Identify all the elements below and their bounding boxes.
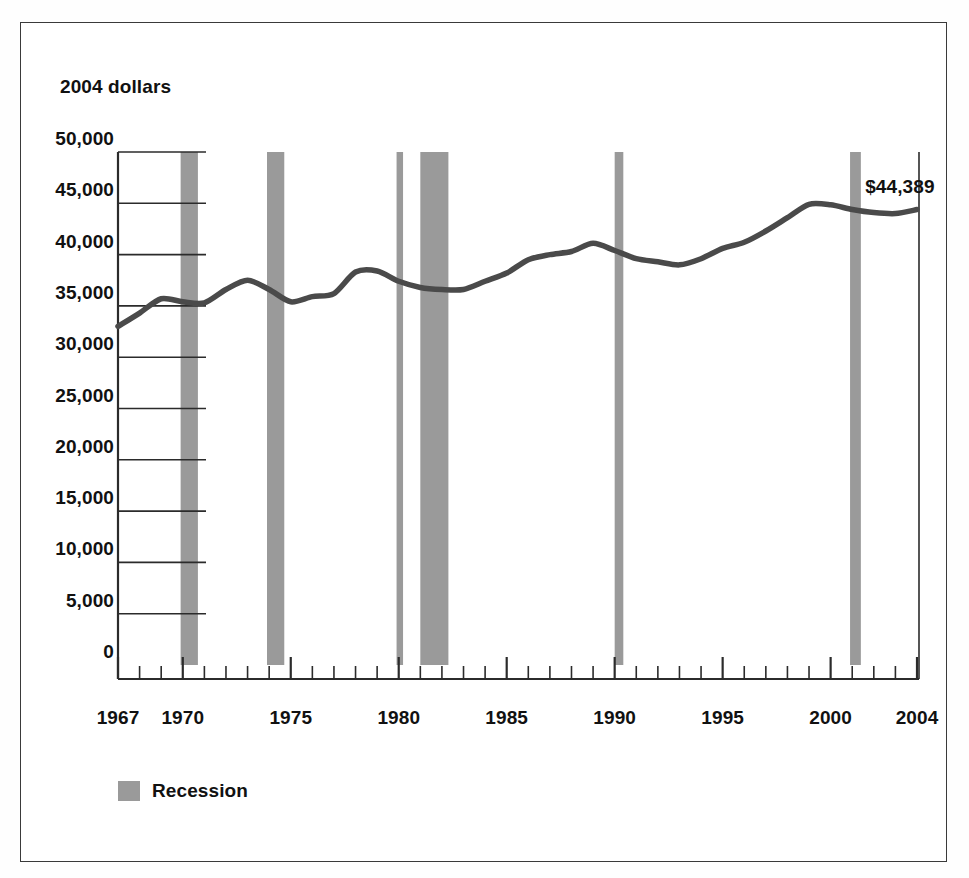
legend-label-recession: Recession	[152, 780, 248, 802]
chart-canvas	[0, 0, 969, 878]
x-tick-label: 1980	[359, 707, 439, 729]
recession-band	[267, 152, 284, 665]
x-tick-label: 2000	[791, 707, 871, 729]
y-tick-label: 10,000	[4, 538, 114, 560]
y-tick-label: 35,000	[4, 282, 114, 304]
y-tick-label: 50,000	[4, 128, 114, 150]
recession-bands-group	[181, 152, 861, 665]
chart-root: 2004 dollars 05,00010,00015,00020,00025,…	[0, 0, 969, 878]
recession-band	[397, 152, 403, 665]
x-tick-label: 1975	[251, 707, 331, 729]
y-tick-label: 40,000	[4, 231, 114, 253]
recession-band	[615, 152, 624, 665]
y-tick-label: 45,000	[4, 179, 114, 201]
plot-area: 05,00010,00015,00020,00025,00030,00035,0…	[0, 0, 969, 878]
axes-group	[118, 152, 919, 679]
y-tick-label: 5,000	[4, 590, 114, 612]
data-line-group	[118, 204, 917, 327]
x-tick-label: 1990	[575, 707, 655, 729]
recession-band	[420, 152, 448, 665]
y-tick-label: 25,000	[4, 385, 114, 407]
x-tick-label: 1985	[467, 707, 547, 729]
recession-band	[850, 152, 861, 665]
x-tick-label: 2004	[877, 707, 957, 729]
y-tick-label: 15,000	[4, 487, 114, 509]
legend-swatch-recession	[118, 781, 140, 801]
income-line	[118, 204, 917, 327]
y-tick-label: 20,000	[4, 436, 114, 458]
chart-legend: Recession	[118, 780, 248, 802]
x-tick-label: 1995	[683, 707, 763, 729]
value-annotation: $44,389	[865, 176, 934, 198]
y-tick-label: 30,000	[4, 333, 114, 355]
x-tick-label: 1970	[143, 707, 223, 729]
y-tick-label: 0	[4, 641, 114, 663]
